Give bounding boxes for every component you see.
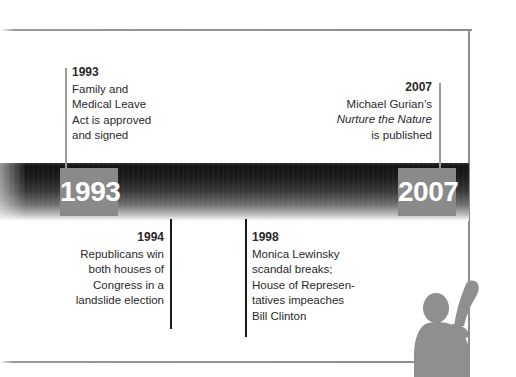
year-badge-1993: 1993 [60,168,118,216]
event-year-1993: 1993 [72,65,222,81]
event-line: Family and [72,82,222,98]
event-line: Congress in a [40,278,164,294]
event-line: landslide election [40,293,164,309]
event-line: scandal breaks; [252,262,412,278]
event-line: tatives impeaches [252,293,412,309]
event-line: and signed [72,128,222,144]
year-badge-2007: 2007 [398,168,456,216]
event-block-2007: 2007 Michael Gurian’s Nurture the Nature… [290,80,432,143]
connector-line-1993 [65,68,67,176]
event-line-book-title: Nurture the Nature [290,112,432,128]
timeline-band-left-fade [0,163,26,221]
event-line: Bill Clinton [252,309,412,325]
event-block-1998: 1998 Monica Lewinsky scandal breaks; Hou… [252,230,412,325]
timeline-infographic: 1993 2007 1993 Family and Medical Leave … [0,0,516,377]
event-line: Republicans win [40,247,164,263]
event-line: House of Represen- [252,278,412,294]
event-line: both houses of [40,262,164,278]
person-silhouette-icon [396,278,516,377]
event-line: Monica Lewinsky [252,247,412,263]
page-frame-top-rule [0,29,472,31]
event-block-1993: 1993 Family and Medical Leave Act is app… [72,65,222,144]
event-line: Act is approved [72,113,222,129]
event-year-1998: 1998 [252,230,412,246]
event-line: Medical Leave [72,97,222,113]
event-line: Michael Gurian’s [290,97,432,113]
event-block-1994: 1994 Republicans win both houses of Cong… [40,230,164,309]
event-line: is published [290,128,432,144]
connector-line-1998 [245,219,247,337]
event-year-1994: 1994 [40,230,164,246]
connector-line-2007 [439,83,441,176]
event-year-2007: 2007 [290,80,432,96]
connector-line-1994 [170,219,172,329]
